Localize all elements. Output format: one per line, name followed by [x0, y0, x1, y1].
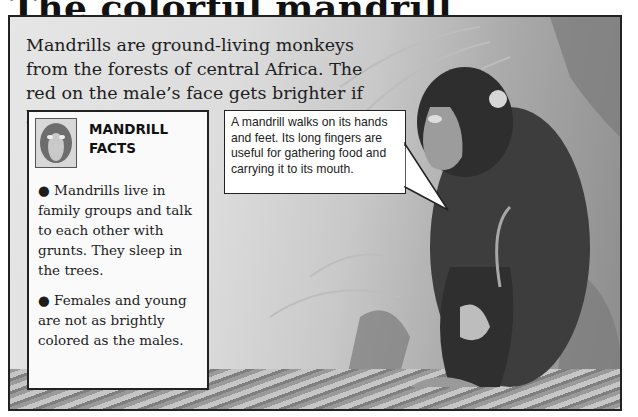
- hands-callout: A mandrill walks on its hands and feet. …: [224, 110, 406, 194]
- mandrill-illustration: [370, 27, 620, 407]
- fact-item: ● Mandrills live in family groups and ta…: [38, 180, 203, 280]
- fact-item: ● Females and young are not as brightly …: [38, 290, 203, 350]
- illustration-panel: Mandrills are ground-living monkeys from…: [8, 15, 622, 411]
- facts-heading: MANDRILL FACTS: [89, 120, 168, 158]
- bullet-icon: ●: [38, 182, 50, 198]
- bullet-icon: ●: [38, 292, 50, 308]
- callout-pointer: [400, 142, 450, 212]
- mandrill-face-icon: [35, 118, 77, 168]
- mandrill-facts-box: MANDRILL FACTS ● Mandrills live in famil…: [27, 110, 209, 390]
